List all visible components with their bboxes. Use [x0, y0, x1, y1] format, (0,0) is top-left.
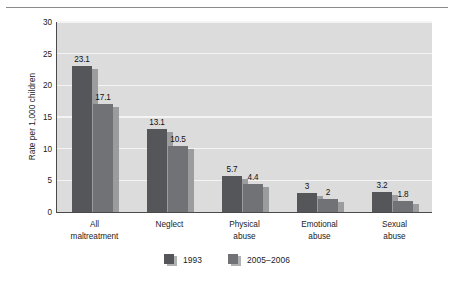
top-divider-rule	[6, 7, 448, 8]
bar-value-label: 23.1	[66, 55, 98, 64]
x-category-label: Emotional abuse	[280, 219, 360, 242]
y-tick-label: 0	[32, 208, 52, 217]
bar-value-label: 13.1	[141, 118, 173, 127]
legend-item[interactable]: 2005–2006	[228, 254, 290, 266]
y-tick-label: 30	[32, 18, 52, 27]
y-tick-label: 25	[32, 49, 52, 58]
bar-chart-figure: Rate per 1,000 children 051015202530 23.…	[0, 0, 454, 292]
bar[interactable]	[72, 66, 92, 212]
legend-label: 2005–2006	[247, 255, 290, 265]
legend-swatch-color	[228, 254, 238, 264]
x-category-label: Neglect	[130, 219, 210, 231]
bar-value-label: 3.2	[366, 181, 398, 190]
bar-value-label: 4.4	[237, 173, 269, 182]
legend-swatch	[228, 254, 241, 266]
y-tick-label: 10	[32, 144, 52, 153]
gridline	[57, 53, 432, 54]
bar-value-label: 1.8	[387, 190, 419, 199]
bar-value-label: 2	[312, 188, 344, 197]
x-category-label: Physical abuse	[205, 219, 285, 242]
bar[interactable]	[93, 104, 113, 212]
bar[interactable]	[168, 146, 188, 213]
gridline	[57, 21, 432, 22]
bar-value-label: 10.5	[162, 135, 194, 144]
y-axis-line	[56, 22, 57, 212]
x-category-label: Sexual abuse	[355, 219, 435, 242]
y-tick-label: 20	[32, 81, 52, 90]
legend-label: 1993	[183, 255, 202, 265]
legend-item[interactable]: 1993	[164, 254, 202, 266]
bar-value-label: 17.1	[87, 93, 119, 102]
bar[interactable]	[318, 199, 338, 212]
y-tick-label: 5	[32, 176, 52, 185]
bar[interactable]	[243, 184, 263, 212]
legend-swatch-color	[164, 254, 174, 264]
chart-legend: 19932005–2006	[0, 254, 454, 266]
x-axis-line	[56, 212, 432, 213]
legend-swatch	[164, 254, 177, 266]
y-tick-label: 15	[32, 113, 52, 122]
gridline	[57, 85, 432, 86]
y-axis-tick-labels: 051015202530	[28, 22, 52, 212]
bar[interactable]	[393, 201, 413, 212]
x-category-label: All maltreatment	[55, 219, 135, 242]
